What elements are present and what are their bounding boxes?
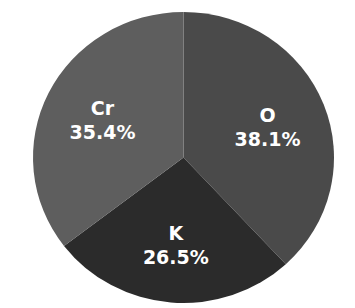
slice-percent-o: 38.1%	[235, 128, 301, 150]
slice-name-cr: Cr	[91, 97, 115, 119]
pie-chart: O38.1%K26.5%Cr35.4%	[0, 0, 355, 308]
slice-name-o: O	[259, 104, 275, 126]
slice-name-k: K	[168, 222, 184, 244]
slice-percent-cr: 35.4%	[70, 121, 136, 143]
slice-percent-k: 26.5%	[143, 246, 209, 268]
